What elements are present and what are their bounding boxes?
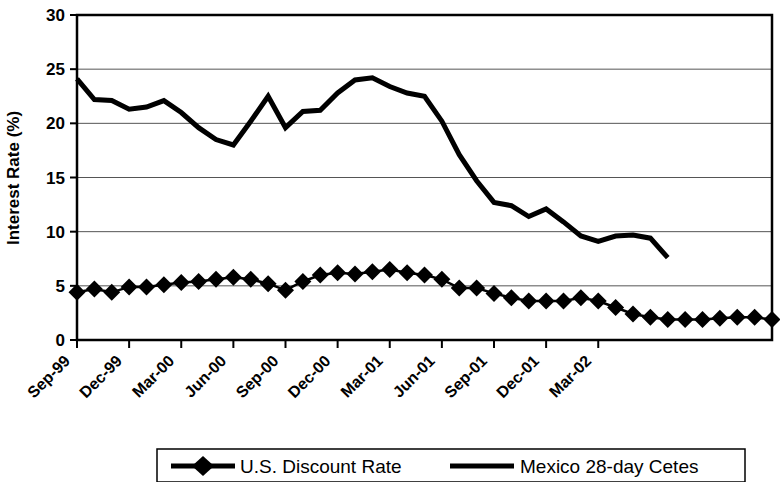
- y-axis-title: Interest Rate (%): [4, 111, 23, 245]
- x-axis-tick-label: Mar-01: [337, 352, 386, 401]
- x-axis-tick-label: Sep-01: [441, 352, 490, 401]
- x-axis-tick-label: Sep-00: [232, 352, 281, 401]
- y-axis-tick-label: 5: [56, 277, 65, 296]
- x-axis-tick-label: Mar-02: [546, 352, 595, 401]
- y-axis-ticks: 051015202530: [46, 6, 77, 350]
- chart-figure: 051015202530 Sep-99Dec-99Mar-00Jun-00Sep…: [0, 0, 780, 482]
- x-axis-tick-label: Sep-99: [24, 352, 73, 401]
- y-axis-tick-label: 0: [56, 331, 65, 350]
- x-axis-tick-label: Jun-00: [181, 352, 230, 401]
- chart-legend: U.S. Discount Rate Mexico 28-day Cetes: [157, 449, 745, 482]
- x-axis-tick-label: Dec-01: [493, 352, 542, 401]
- x-axis-tick-labels: Sep-99Dec-99Mar-00Jun-00Sep-00Dec-00Mar-…: [24, 352, 594, 401]
- y-axis-tick-label: 25: [46, 60, 65, 79]
- x-axis-tick-label: Jun-01: [390, 352, 439, 401]
- interest-rate-line-chart: 051015202530 Sep-99Dec-99Mar-00Jun-00Sep…: [0, 0, 780, 482]
- x-axis-tick-label: Dec-00: [285, 352, 334, 401]
- y-axis-tick-label: 30: [46, 6, 65, 25]
- legend-label-series-1: Mexico 28-day Cetes: [520, 456, 698, 477]
- y-axis-tick-label: 20: [46, 114, 65, 133]
- y-axis-tick-label: 15: [46, 169, 65, 188]
- x-axis-tick-label: Mar-00: [129, 352, 178, 401]
- x-axis-tick-label: Dec-99: [76, 352, 125, 401]
- legend-label-series-0: U.S. Discount Rate: [240, 456, 402, 477]
- y-axis-tick-label: 10: [46, 223, 65, 242]
